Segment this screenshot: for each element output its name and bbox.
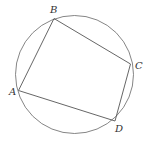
vertex-label-b: B bbox=[49, 4, 57, 15]
diagram-canvas: A B C D bbox=[0, 0, 149, 144]
quadrilateral-abcd bbox=[19, 19, 131, 122]
circumscribed-circle bbox=[16, 16, 134, 134]
vertex-label-a: A bbox=[8, 86, 16, 97]
vertex-label-d: D bbox=[114, 123, 123, 134]
vertex-label-c: C bbox=[135, 60, 143, 71]
cyclic-quadrilateral-diagram: A B C D bbox=[0, 0, 149, 144]
